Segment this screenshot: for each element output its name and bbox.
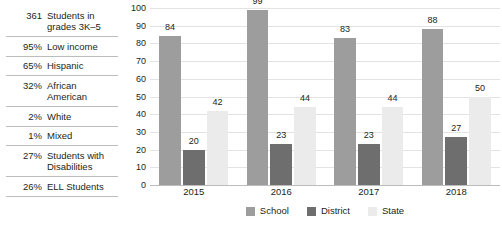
bar-value-label: 88 — [427, 16, 437, 25]
table-row: 95%Low income — [6, 37, 118, 57]
legend-label: State — [382, 206, 404, 216]
infographic-root: 361Students in grades 3K–595%Low income6… — [0, 0, 502, 233]
plot-wrap: 0102030405060708090100 84204299234483234… — [126, 8, 500, 185]
demographics-table: 361Students in grades 3K–595%Low income6… — [6, 6, 118, 197]
x-axis-tick: 2015 — [150, 186, 238, 197]
bar-groups: 842042992344832344882750 — [150, 8, 500, 185]
bars: 882750 — [413, 8, 501, 185]
legend-item-district[interactable]: District — [307, 206, 350, 216]
bar-slot: 20 — [183, 8, 205, 185]
y-axis-tick: 70 — [136, 57, 146, 66]
student-demographics-panel: 361Students in grades 3K–595%Low income6… — [0, 0, 126, 233]
bar-slot: 44 — [382, 8, 404, 185]
x-axis-tick: 2017 — [325, 186, 413, 197]
bar-value-label: 50 — [475, 84, 485, 93]
stat-value: 361 — [6, 6, 47, 37]
bar-group: 992344 — [238, 8, 326, 185]
bar-district-2016[interactable]: 23 — [270, 144, 292, 185]
y-axis-tick: 40 — [136, 110, 146, 119]
bar-school-2017[interactable]: 83 — [334, 38, 356, 185]
y-axis-tick: 0 — [141, 181, 146, 190]
bar-slot: 88 — [422, 8, 444, 185]
bars: 842042 — [150, 8, 238, 185]
plot-area: 842042992344832344882750 — [150, 8, 500, 185]
table-row: 26%ELL Students — [6, 177, 118, 197]
stat-label: ELL Students — [47, 177, 118, 197]
bar-school-2016[interactable]: 99 — [247, 10, 269, 185]
stat-label: White — [47, 107, 118, 127]
stat-label: Students with Disabilities — [47, 146, 118, 177]
bar-value-label: 23 — [276, 131, 286, 140]
stat-value: 65% — [6, 56, 47, 76]
x-axis-tick: 2016 — [238, 186, 326, 197]
bar-slot: 99 — [247, 8, 269, 185]
bar-district-2015[interactable]: 20 — [183, 150, 205, 185]
stat-label: Low income — [47, 37, 118, 57]
y-axis-tick: 50 — [136, 92, 146, 101]
bar-slot: 83 — [334, 8, 356, 185]
bar-slot: 23 — [358, 8, 380, 185]
bar-state-2018[interactable]: 50 — [469, 97, 491, 186]
legend-swatch-icon — [307, 207, 316, 216]
table-row: 2%White — [6, 107, 118, 127]
stat-label: African American — [47, 76, 118, 107]
table-row: 32%African American — [6, 76, 118, 107]
y-axis-tick: 10 — [136, 163, 146, 172]
bar-value-label: 27 — [451, 124, 461, 133]
y-axis-tick: 80 — [136, 39, 146, 48]
bar-group: 842042 — [150, 8, 238, 185]
table-row: 361Students in grades 3K–5 — [6, 6, 118, 37]
bar-value-label: 84 — [165, 23, 175, 32]
stat-value: 1% — [6, 126, 47, 146]
bar-slot: 42 — [207, 8, 229, 185]
legend-item-state[interactable]: State — [368, 206, 404, 216]
x-axis-tick: 2018 — [413, 186, 501, 197]
stat-label: Students in grades 3K–5 — [47, 6, 118, 37]
table-row: 1%Mixed — [6, 126, 118, 146]
bar-group: 832344 — [325, 8, 413, 185]
bar-district-2018[interactable]: 27 — [445, 137, 467, 185]
bar-school-2015[interactable]: 84 — [159, 36, 181, 185]
chart-legend: SchoolDistrictState — [150, 206, 500, 216]
bar-value-label: 20 — [189, 137, 199, 146]
bar-school-2018[interactable]: 88 — [422, 29, 444, 185]
table-row: 27%Students with Disabilities — [6, 146, 118, 177]
y-axis-tick: 20 — [136, 145, 146, 154]
legend-swatch-icon — [246, 207, 255, 216]
bar-slot: 84 — [159, 8, 181, 185]
bar-district-2017[interactable]: 23 — [358, 144, 380, 185]
bars: 832344 — [325, 8, 413, 185]
stat-value: 27% — [6, 146, 47, 177]
legend-label: School — [260, 206, 289, 216]
legend-swatch-icon — [368, 207, 377, 216]
stat-value: 95% — [6, 37, 47, 57]
y-axis-tick: 90 — [136, 21, 146, 30]
bar-slot: 50 — [469, 8, 491, 185]
x-axis: 2015201620172018 — [150, 186, 500, 197]
stat-value: 2% — [6, 107, 47, 127]
bar-state-2017[interactable]: 44 — [382, 107, 404, 185]
bar-value-label: 44 — [388, 94, 398, 103]
bar-value-label: 23 — [364, 131, 374, 140]
legend-label: District — [321, 206, 350, 216]
bar-slot: 44 — [294, 8, 316, 185]
stat-value: 26% — [6, 177, 47, 197]
bar-value-label: 83 — [340, 25, 350, 34]
stat-label: Hispanic — [47, 56, 118, 76]
y-axis-tick: 30 — [136, 127, 146, 136]
y-axis: 0102030405060708090100 — [126, 8, 148, 185]
bar-slot: 27 — [445, 8, 467, 185]
table-row: 65%Hispanic — [6, 56, 118, 76]
bar-value-label: 44 — [300, 94, 310, 103]
stat-label: Mixed — [47, 126, 118, 146]
y-axis-tick: 100 — [131, 4, 146, 13]
bar-state-2016[interactable]: 44 — [294, 107, 316, 185]
bar-state-2015[interactable]: 42 — [207, 111, 229, 185]
legend-item-school[interactable]: School — [246, 206, 289, 216]
bar-chart: 0102030405060708090100 84204299234483234… — [126, 0, 502, 233]
y-axis-tick: 60 — [136, 74, 146, 83]
bar-group: 882750 — [413, 8, 501, 185]
stat-value: 32% — [6, 76, 47, 107]
bar-value-label: 42 — [213, 98, 223, 107]
bar-slot: 23 — [270, 8, 292, 185]
